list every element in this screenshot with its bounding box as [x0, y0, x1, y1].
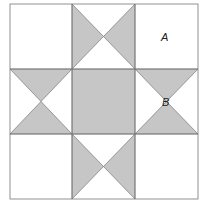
label-b: B: [162, 96, 169, 108]
label-a: A: [160, 31, 168, 43]
left-top-triangle: [10, 69, 72, 102]
top-right-triangle: [104, 4, 136, 69]
bottom-left-triangle: [72, 134, 104, 199]
bottom-right-triangle: [104, 134, 136, 199]
quilt-diagram: A B: [0, 0, 204, 206]
center-square: [72, 69, 135, 134]
left-bottom-triangle: [10, 102, 72, 135]
top-left-triangle: [72, 4, 104, 69]
shaded-regions: [10, 4, 198, 199]
